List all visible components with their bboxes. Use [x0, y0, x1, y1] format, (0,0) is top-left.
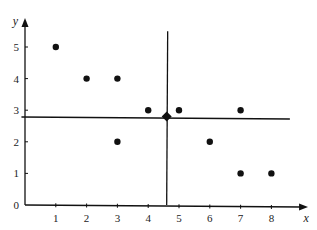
data-point	[53, 44, 59, 50]
y-tick-label: 2	[14, 136, 20, 148]
x-tick-label: 5	[176, 212, 182, 224]
data-point	[145, 107, 151, 113]
mean-point-diamond-icon	[162, 112, 172, 122]
data-point	[114, 75, 120, 81]
reference-lines	[21, 31, 289, 205]
x-axis-line	[25, 205, 302, 207]
y-tick-label: 3	[14, 104, 20, 116]
data-point	[176, 107, 182, 113]
data-point	[268, 170, 274, 176]
x-tick-label: 2	[84, 212, 90, 224]
data-point	[237, 170, 243, 176]
scatter-chart: 12345678012345xy	[0, 0, 317, 230]
x-tick-label: 1	[53, 212, 59, 224]
data-point	[83, 75, 89, 81]
x-tick-label: 7	[238, 212, 244, 224]
y-axis-label: y	[12, 14, 19, 28]
x-tick-label: 3	[115, 212, 121, 224]
x-tick-label: 8	[269, 212, 275, 224]
y-tick-label: 1	[14, 167, 20, 179]
y-tick-label: 4	[14, 73, 20, 85]
data-point	[114, 139, 120, 145]
horizontal-mean-line	[21, 117, 289, 119]
x-axis-arrow-icon	[299, 204, 308, 211]
x-tick-label: 6	[207, 212, 213, 224]
y-tick-label: 0	[14, 199, 20, 211]
data-point	[237, 107, 243, 113]
data-point	[207, 139, 213, 145]
x-tick-label: 4	[145, 212, 151, 224]
x-axis-label: x	[302, 211, 309, 225]
data-points	[53, 44, 275, 177]
y-tick-label: 5	[14, 41, 20, 53]
y-axis-arrow-icon	[22, 18, 29, 27]
